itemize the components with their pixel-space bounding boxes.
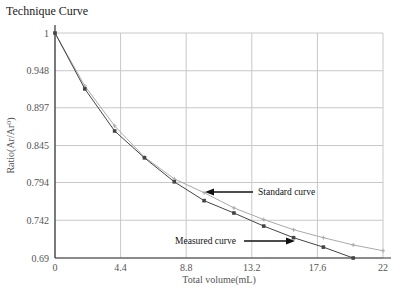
- annotation-measured-curve: Measured curve: [175, 236, 236, 246]
- y-axis-label: Ratio(Ar/Ar⁰): [5, 117, 17, 173]
- data-point-marker: [322, 245, 326, 249]
- x-tick-label: 17.6: [309, 262, 327, 273]
- y-tick-label: 0.794: [27, 177, 50, 188]
- annotation-standard-curve: Standard curve: [258, 187, 315, 197]
- data-point-marker: [143, 156, 147, 160]
- y-tick-label: 0.742: [27, 215, 50, 226]
- arrow-head-icon: [205, 189, 214, 196]
- y-tick-label: 0.948: [27, 65, 50, 76]
- y-tick-label: 0.69: [32, 253, 50, 264]
- data-point-marker: [202, 199, 206, 203]
- y-tick-label: 1: [44, 28, 49, 39]
- data-point-marker: [292, 236, 296, 240]
- data-point-marker: [202, 191, 206, 195]
- series-line: [55, 33, 383, 251]
- data-point-marker: [83, 87, 87, 91]
- chart-plot-area: 10.9480.8970.8450.7940.7420.6904.48.813.…: [0, 0, 402, 293]
- x-tick-label: 4.4: [114, 262, 127, 273]
- x-tick-label: 13.2: [243, 262, 261, 273]
- y-tick-label: 0.897: [27, 102, 50, 113]
- data-point-marker: [232, 206, 236, 210]
- x-tick-label: 22: [378, 262, 388, 273]
- data-point-marker: [262, 218, 266, 222]
- data-point-marker: [321, 236, 325, 240]
- data-point-marker: [381, 249, 385, 253]
- data-point-marker: [113, 129, 117, 133]
- data-point-marker: [262, 224, 266, 228]
- x-axis-label: Total volume(mL): [182, 274, 255, 286]
- data-point-marker: [351, 243, 355, 247]
- data-point-marker: [172, 180, 176, 184]
- x-tick-label: 8.8: [180, 262, 193, 273]
- x-tick-label: 0: [53, 262, 58, 273]
- data-point-marker: [292, 228, 296, 232]
- y-tick-label: 0.845: [27, 140, 50, 151]
- data-point-marker: [232, 211, 236, 215]
- data-point-marker: [351, 256, 355, 260]
- data-point-marker: [53, 31, 57, 35]
